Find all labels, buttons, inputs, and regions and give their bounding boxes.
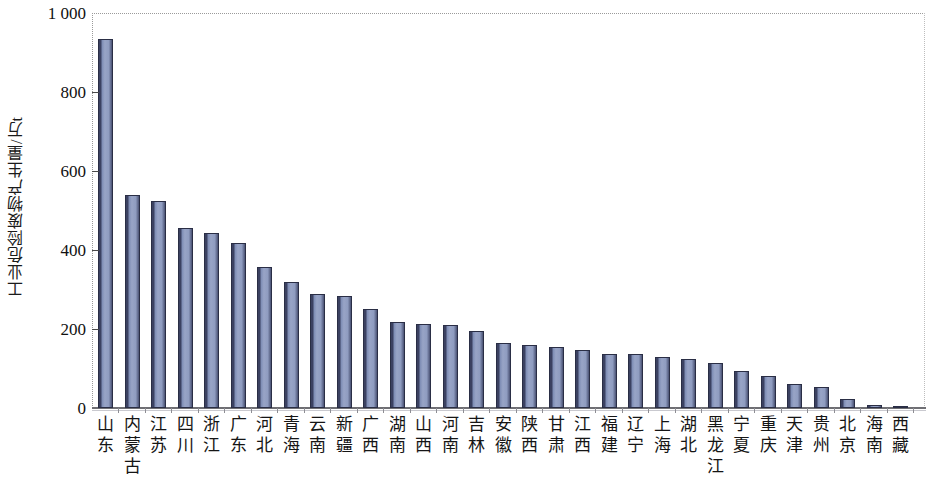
x-axis-tick-mark — [781, 408, 782, 413]
x-axis-tick-mark — [463, 408, 464, 413]
x-axis-category-label: 陕西 — [517, 414, 543, 456]
x-axis-tick-mark — [754, 408, 755, 413]
x-axis-category-labels: 山东内蒙古江苏四川浙江广东河北青海云南新疆广西湖南山西河南吉林安徽陕西甘肃江西福… — [92, 414, 925, 484]
y-axis-tick-label: 200 — [61, 321, 87, 338]
x-axis-tick-mark — [277, 408, 278, 413]
y-axis-tick-mark — [92, 92, 99, 93]
x-axis-category-label: 浙江 — [199, 414, 225, 456]
x-axis-category-label: 青海 — [278, 414, 304, 456]
x-axis-category-label: 黑龙江 — [702, 414, 728, 477]
x-axis-tick-mark — [198, 408, 199, 413]
x-axis-tick-mark — [410, 408, 411, 413]
x-axis-tick-mark — [330, 408, 331, 413]
x-axis-tick-mark — [701, 408, 702, 413]
x-axis-tick-mark — [728, 408, 729, 413]
bar — [496, 343, 511, 408]
bar — [734, 371, 749, 408]
x-axis-category-label: 上海 — [649, 414, 675, 456]
bar — [681, 359, 696, 408]
y-axis-tick-label: 0 — [78, 400, 87, 417]
x-axis-category-label: 广西 — [358, 414, 384, 456]
x-axis-tick-mark — [675, 408, 676, 413]
x-axis-tick-mark — [251, 408, 252, 413]
x-axis-category-label: 四川 — [172, 414, 198, 456]
x-axis-tick-mark — [357, 408, 358, 413]
x-axis-tick-mark — [622, 408, 623, 413]
bar-series — [92, 13, 925, 408]
x-axis-tick-mark — [383, 408, 384, 413]
bar — [814, 387, 829, 408]
bar — [575, 350, 590, 408]
x-axis-tick-mark — [887, 408, 888, 413]
x-axis-category-label: 福建 — [596, 414, 622, 456]
x-axis-tick-mark — [489, 408, 490, 413]
bar — [655, 357, 670, 408]
bar — [204, 233, 219, 408]
x-axis-category-label: 海南 — [861, 414, 887, 456]
bar — [840, 399, 855, 408]
bar-chart-figure: 工业危险废物产生量/万t 02004006008001 000 山东内蒙古江苏四… — [0, 0, 934, 484]
x-axis-category-label: 湖北 — [676, 414, 702, 456]
x-axis-category-label: 宁夏 — [729, 414, 755, 456]
x-axis-category-label: 湖南 — [384, 414, 410, 456]
bar — [231, 243, 246, 408]
x-axis-category-label: 江苏 — [146, 414, 172, 456]
bar — [337, 296, 352, 408]
y-axis-tick-mark — [92, 250, 99, 251]
x-axis-tick-mark — [516, 408, 517, 413]
x-axis-category-label: 贵州 — [808, 414, 834, 456]
y-axis-tick-labels: 02004006008001 000 — [28, 0, 90, 420]
x-axis-category-label: 北京 — [835, 414, 861, 456]
x-axis-category-label: 新疆 — [331, 414, 357, 456]
y-axis-tick-mark — [92, 329, 99, 330]
bar — [98, 39, 113, 408]
bar — [416, 324, 431, 408]
bar — [469, 331, 484, 408]
bar — [284, 282, 299, 408]
x-axis-tick-mark — [807, 408, 808, 413]
x-axis-tick-mark — [145, 408, 146, 413]
x-axis-line-shadow — [92, 410, 926, 411]
x-axis-tick-mark — [436, 408, 437, 413]
bar — [390, 322, 405, 408]
bar — [522, 345, 537, 408]
bar — [363, 309, 378, 408]
x-axis-tick-mark — [913, 408, 914, 413]
x-axis-category-label: 山东 — [93, 414, 119, 456]
bar — [125, 195, 140, 408]
y-axis-tick-mark — [92, 171, 99, 172]
bar — [602, 354, 617, 409]
x-axis-tick-mark — [569, 408, 570, 413]
bar — [628, 354, 643, 408]
y-axis-title-text: 工业危险废物产生量/万t — [5, 116, 29, 297]
x-axis-category-label: 云南 — [305, 414, 331, 456]
x-axis-tick-mark — [118, 408, 119, 413]
bar — [549, 347, 564, 408]
x-axis-tick-mark — [834, 408, 835, 413]
bar — [761, 376, 776, 408]
bar — [867, 405, 882, 408]
bar — [310, 294, 325, 408]
bar — [708, 363, 723, 408]
x-axis-tick-mark — [542, 408, 543, 413]
x-axis-category-label: 天津 — [782, 414, 808, 456]
x-axis-category-label: 辽宁 — [623, 414, 649, 456]
x-axis-tick-mark — [595, 408, 596, 413]
bar — [257, 267, 272, 408]
x-axis-category-label: 安徽 — [490, 414, 516, 456]
bar — [893, 406, 908, 408]
bar — [178, 228, 193, 408]
y-axis-tick-label: 400 — [61, 242, 87, 259]
x-axis-category-label: 重庆 — [755, 414, 781, 456]
x-axis-category-label: 甘肃 — [543, 414, 569, 456]
bar — [443, 325, 458, 408]
x-axis-category-label: 江西 — [570, 414, 596, 456]
x-axis-tick-mark — [860, 408, 861, 413]
x-axis-category-label: 河南 — [437, 414, 463, 456]
x-axis-category-label: 广东 — [225, 414, 251, 456]
x-axis-tick-mark — [648, 408, 649, 413]
x-axis-tick-mark — [304, 408, 305, 413]
bar — [787, 384, 802, 408]
y-axis-tick-label: 1 000 — [48, 5, 86, 22]
y-axis-tick-label: 800 — [61, 84, 87, 101]
